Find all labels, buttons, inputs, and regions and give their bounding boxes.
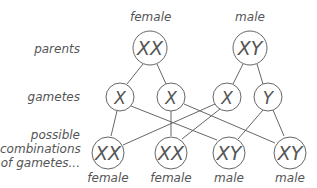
offspring-genotype: XX <box>94 142 122 164</box>
gamete-label: Y <box>263 88 275 108</box>
offspring-genotype: XY <box>216 142 243 164</box>
row-label-line: of gametes... <box>0 156 80 170</box>
edge <box>257 64 263 84</box>
sex-determination-diagram: XX XY X X X Y XX XX XY XY female male pa… <box>0 0 317 188</box>
row-label-line: possible <box>0 128 80 142</box>
edge <box>233 64 243 84</box>
edge <box>127 64 143 84</box>
edge <box>111 111 117 136</box>
edge <box>157 64 166 84</box>
offspring-genotype: XY <box>277 142 304 164</box>
edge <box>182 109 220 139</box>
row-label-gametes: gametes <box>0 90 80 104</box>
column-header-male: male <box>230 10 270 24</box>
parent-genotype: XX <box>136 37 164 59</box>
gamete-label: X <box>164 88 177 108</box>
edge <box>123 104 215 145</box>
offspring-genotype: XX <box>157 142 185 164</box>
parent-genotype: XY <box>237 37 264 59</box>
column-header-female: female <box>130 10 170 24</box>
offspring-sex: male <box>265 171 315 185</box>
gamete-label: X <box>220 88 233 108</box>
offspring-sex: female <box>146 171 196 185</box>
row-label-combinations: possible combinations of gametes... <box>0 128 80 170</box>
offspring-sex: male <box>204 171 254 185</box>
offspring-sex: female <box>83 171 133 185</box>
row-label-parents: parents <box>0 42 80 56</box>
edge <box>238 110 263 139</box>
edge <box>273 110 284 136</box>
gamete-label: X <box>113 88 126 108</box>
row-label-line: combinations <box>0 142 80 156</box>
